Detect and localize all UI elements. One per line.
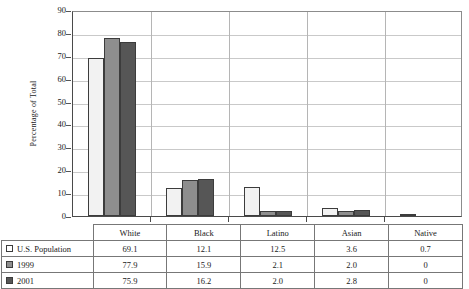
y-axis-tick-20: 20 [40,166,66,175]
y-axis-tick-mark [66,57,71,58]
legend-label: U.S. Population [17,244,71,254]
y-axis-tick-mark [66,103,71,104]
legend-cell-u-s-population: U.S. Population [2,241,94,257]
column-header-asian: Asian [315,225,389,241]
legend-cell-2001: 2001 [2,273,94,289]
table-row: 199977.915.92.12.00 [2,257,463,273]
x-axis-tick-mark [306,217,307,222]
data-cell-white: 75.9 [93,273,167,289]
y-axis-tick-mark [66,80,71,81]
data-cell-asian: 3.6 [315,241,389,257]
x-axis-tick-mark [384,217,385,222]
bar-white-u-s-population [88,58,104,216]
category-separator [151,12,152,216]
bar-latino-1999 [260,211,276,216]
data-cell-black: 16.2 [167,273,241,289]
y-axis-tick-mark [66,217,71,218]
legend-swatch-icon [6,261,13,268]
bar-white-2001 [120,42,136,216]
y-axis-tick-30: 30 [40,143,66,152]
y-axis-tick-0: 0 [40,212,66,221]
table-header-row: WhiteBlackLatinoAsianNative [2,225,463,241]
category-separator [307,12,308,216]
column-header-native: Native [389,225,463,241]
data-cell-latino: 12.5 [241,241,315,257]
y-axis-title: Percentage of Total [29,29,38,199]
column-header-latino: Latino [241,225,315,241]
data-cell-asian: 2.0 [315,257,389,273]
data-cell-black: 12.1 [167,241,241,257]
bar-latino-u-s-population [244,187,260,216]
gridline [73,35,461,36]
bar-native-u-s-population [400,214,416,216]
y-axis-tick-mark [66,11,71,12]
bar-latino-2001 [276,211,292,216]
bar-black-1999 [182,180,198,216]
y-axis-tick-mark [66,148,71,149]
bar-chart-figure: Percentage of Total 9080706050403020100 … [0,0,469,289]
plot-area [72,11,462,217]
legend-label: 2001 [17,276,34,286]
data-table: WhiteBlackLatinoAsianNativeU.S. Populati… [1,224,463,289]
category-separator [385,12,386,216]
bar-white-1999 [104,38,120,216]
bar-black-u-s-population [166,188,182,216]
y-axis-tick-40: 40 [40,120,66,129]
data-table-body: WhiteBlackLatinoAsianNativeU.S. Populati… [2,225,463,289]
data-cell-native: 0 [389,273,463,289]
category-separator [229,12,230,216]
data-cell-asian: 2.8 [315,273,389,289]
y-axis-tick-mark [66,34,71,35]
y-axis-tick-70: 70 [40,52,66,61]
x-axis-tick-mark [150,217,151,222]
table-corner-cell [2,225,94,241]
y-axis-tick-mark [66,194,71,195]
data-cell-white: 69.1 [93,241,167,257]
bar-asian-2001 [354,210,370,216]
y-axis-tick-10: 10 [40,189,66,198]
y-axis-tick-90: 90 [40,6,66,15]
data-cell-native: 0 [389,257,463,273]
data-cell-latino: 2.0 [241,273,315,289]
legend-cell-1999: 1999 [2,257,94,273]
y-axis-tick-80: 80 [40,29,66,38]
y-axis-tick-mark [66,171,71,172]
x-axis-tick-mark [228,217,229,222]
legend-swatch-icon [6,277,13,284]
bar-asian-1999 [338,211,354,216]
bar-asian-u-s-population [322,208,338,216]
y-axis-tick-60: 60 [40,75,66,84]
data-cell-white: 77.9 [93,257,167,273]
table-row: 200175.916.22.02.80 [2,273,463,289]
data-cell-latino: 2.1 [241,257,315,273]
data-cell-native: 0.7 [389,241,463,257]
y-axis-tick-50: 50 [40,98,66,107]
column-header-white: White [93,225,167,241]
column-header-black: Black [167,225,241,241]
legend-label: 1999 [17,260,34,270]
data-cell-black: 15.9 [167,257,241,273]
y-axis-tick-mark [66,125,71,126]
bar-black-2001 [198,179,214,216]
table-row: U.S. Population69.112.112.53.60.7 [2,241,463,257]
legend-swatch-icon [6,245,13,252]
